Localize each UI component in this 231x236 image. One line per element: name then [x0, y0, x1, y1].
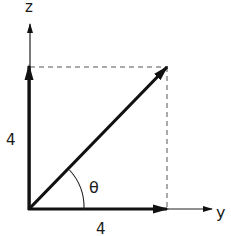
vector-diagram: z y 4 4 θ	[0, 0, 231, 236]
angle-arc	[70, 170, 85, 209]
z-axis-label: z	[25, 0, 33, 16]
theta-label: θ	[89, 178, 99, 197]
y-magnitude-label: 4	[96, 220, 106, 236]
z-magnitude-label: 4	[6, 131, 16, 149]
y-axis-label: y	[216, 203, 225, 222]
